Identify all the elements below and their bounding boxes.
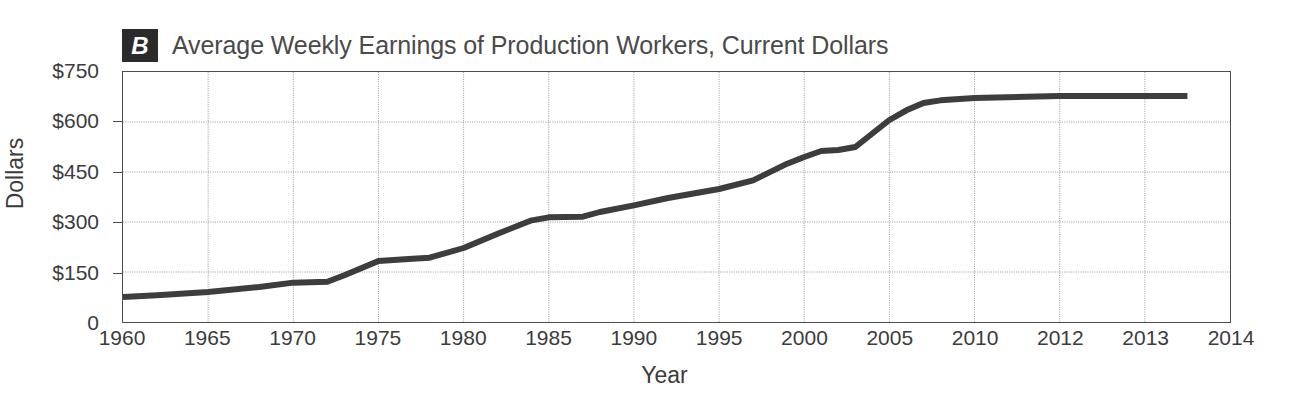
x-axis-tick-1975: 1975 (355, 327, 402, 348)
chart-page: B Average Weekly Earnings of Production … (0, 0, 1289, 401)
x-axis-tick-2000: 2000 (781, 327, 828, 348)
chart-title: Average Weekly Earnings of Production Wo… (172, 31, 888, 60)
chart-header: B Average Weekly Earnings of Production … (122, 26, 888, 64)
x-axis-label: Year (0, 362, 1289, 389)
y-axis-tick-usd450: $450 (52, 161, 113, 182)
y-axis-tick-usd750: $750 (52, 60, 113, 81)
y-axis-tick-mark (113, 172, 122, 173)
x-axis-tick-1965: 1965 (184, 327, 231, 348)
x-axis-tick-1985: 1985 (525, 327, 572, 348)
y-axis-tick-mark (113, 273, 122, 274)
y-axis-tick-mark (113, 222, 122, 223)
data-series-line (123, 72, 1230, 322)
y-axis-tick-usd600: $600 (52, 110, 113, 131)
x-axis-tick-2014: 2014 (1208, 327, 1255, 348)
x-axis-tick-2013: 2013 (1122, 327, 1169, 348)
x-axis-tick-1970: 1970 (269, 327, 316, 348)
x-axis-tick-2005: 2005 (866, 327, 913, 348)
y-axis-tick-usd300: $300 (52, 211, 113, 232)
y-axis-label: Dollars (2, 138, 29, 210)
panel-label-badge: B (122, 29, 158, 62)
x-axis-tick-2010: 2010 (952, 327, 999, 348)
x-axis-tick-1990: 1990 (610, 327, 657, 348)
y-axis-tick-mark (113, 121, 122, 122)
plot-area (122, 71, 1231, 323)
y-axis-tick-usd150: $150 (52, 262, 113, 283)
x-axis-tick-1995: 1995 (696, 327, 743, 348)
x-axis-tick-2012: 2012 (1037, 327, 1084, 348)
x-axis-tick-1980: 1980 (440, 327, 487, 348)
x-axis-label-text: Year (641, 362, 687, 388)
x-axis-tick-1960: 1960 (99, 327, 146, 348)
